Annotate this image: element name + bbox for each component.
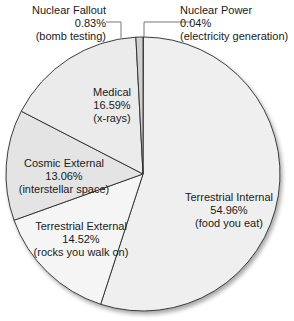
label-nuclear-power-name: Nuclear Power (180, 4, 288, 17)
label-medical: Medical 16.59% (x-rays) (60, 86, 164, 125)
label-terrestrial-internal: Terrestrial Internal 54.96% (food you ea… (166, 191, 292, 230)
label-terr-int-note: (food you eat) (166, 217, 292, 230)
label-cosmic-name: Cosmic External (4, 157, 124, 170)
label-terr-int-name: Terrestrial Internal (166, 191, 292, 204)
label-cosmic-external: Cosmic External 13.06% (interstellar spa… (4, 157, 124, 196)
label-nuclear-fallout-pct: 0.83% (32, 17, 106, 30)
label-cosmic-pct: 13.06% (4, 170, 124, 183)
label-medical-pct: 16.59% (60, 99, 164, 112)
label-nuclear-power-pct: 0.04% (180, 17, 288, 30)
label-terr-ext-pct: 14.52% (26, 233, 136, 246)
label-nuclear-fallout: Nuclear Fallout 0.83% (bomb testing) (32, 4, 106, 43)
label-nuclear-fallout-name: Nuclear Fallout (32, 4, 106, 17)
label-nuclear-power: Nuclear Power 0.04% (electricity generat… (180, 4, 288, 43)
label-terr-int-pct: 54.96% (166, 204, 292, 217)
label-terrestrial-external: Terrestrial External 14.52% (rocks you w… (26, 220, 136, 259)
label-medical-note: (x-rays) (60, 112, 164, 125)
label-medical-name: Medical (60, 86, 164, 99)
label-nuclear-fallout-note: (bomb testing) (32, 30, 106, 43)
label-terr-ext-name: Terrestrial External (26, 220, 136, 233)
label-nuclear-power-note: (electricity generation) (180, 30, 288, 43)
label-terr-ext-note: (rocks you walk on) (26, 246, 136, 259)
leader-line-nuclear-fallout (106, 22, 121, 38)
label-cosmic-note: (interstellar space) (4, 183, 124, 196)
